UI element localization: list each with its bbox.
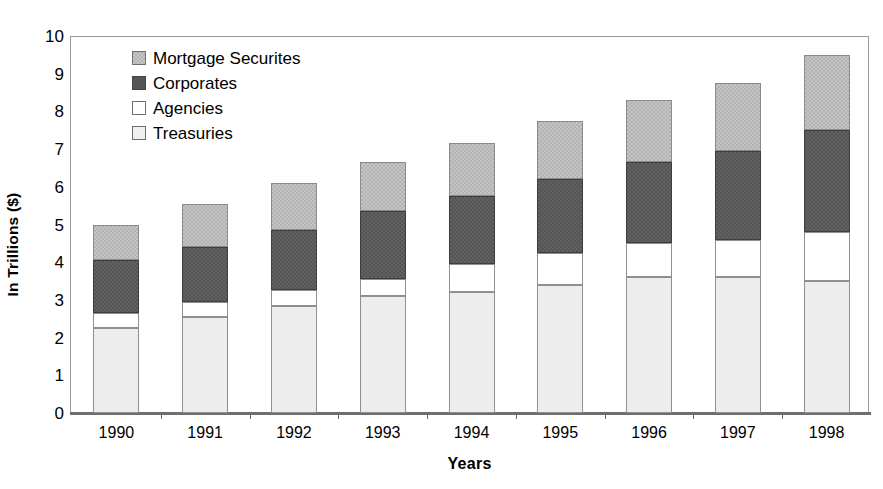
x-tick-label: 1997 — [720, 424, 756, 442]
legend-item: Mortgage Securites — [132, 46, 300, 70]
treasuries-swatch — [132, 126, 146, 140]
legend-item-label: Agencies — [153, 100, 223, 117]
stacked-bar-chart: In Trillions ($) 109876543210 Mortgage S… — [0, 0, 883, 489]
y-tick-label: 5 — [26, 216, 64, 233]
x-tick-label: 1995 — [542, 424, 578, 442]
y-tick-label: 3 — [26, 291, 64, 308]
y-tick-label: 8 — [26, 103, 64, 120]
x-tick-mark — [693, 413, 694, 419]
x-tick-label: 1992 — [276, 424, 312, 442]
corporates-swatch — [132, 76, 146, 90]
x-axis-line — [70, 412, 871, 415]
y-tick-label: 6 — [26, 178, 64, 195]
x-tick-label: 1994 — [454, 424, 490, 442]
y-tick-label: 10 — [26, 28, 64, 45]
x-tick-mark — [161, 413, 162, 419]
y-axis-ticks: 109876543210 — [26, 0, 64, 489]
legend-item: Agencies — [132, 96, 300, 120]
x-tick-label: 1993 — [365, 424, 401, 442]
x-tick-mark — [605, 413, 606, 419]
y-tick-label: 9 — [26, 65, 64, 82]
legend-item-label: Corporates — [153, 75, 237, 92]
x-tick-label: 1998 — [809, 424, 845, 442]
legend-item-label: Treasuries — [153, 125, 233, 142]
y-tick-label: 4 — [26, 254, 64, 271]
legend-item: Treasuries — [132, 121, 300, 145]
y-tick-label: 7 — [26, 141, 64, 158]
legend: Mortgage SecuritesCorporatesAgenciesTrea… — [132, 46, 300, 146]
y-tick-label: 0 — [26, 405, 64, 422]
x-tick-label: 1990 — [99, 424, 135, 442]
legend-item: Corporates — [132, 71, 300, 95]
x-tick-mark — [516, 413, 517, 419]
x-tick-mark — [338, 413, 339, 419]
x-tick-label: 1991 — [187, 424, 223, 442]
x-tick-mark — [782, 413, 783, 419]
agencies-swatch — [132, 101, 146, 115]
x-tick-mark — [427, 413, 428, 419]
y-axis-title: In Trillions ($) — [0, 0, 26, 489]
y-tick-label: 2 — [26, 329, 64, 346]
y-tick-label: 1 — [26, 367, 64, 384]
x-tick-mark — [250, 413, 251, 419]
legend-item-label: Mortgage Securites — [153, 50, 300, 67]
x-tick-label: 1996 — [631, 424, 667, 442]
mortgage-swatch — [132, 51, 146, 65]
x-axis-title: Years — [70, 455, 869, 473]
